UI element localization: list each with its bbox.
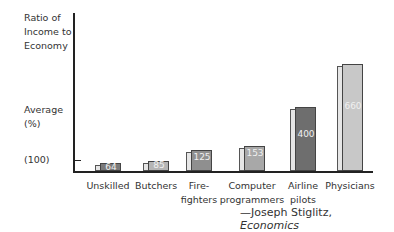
bar-value-label: 125 xyxy=(192,152,212,162)
bar-value-label: 400 xyxy=(296,129,316,139)
y-axis-label-line-1: Ratio of xyxy=(24,11,61,25)
source-work: Economics xyxy=(240,219,299,232)
source-author: —Joseph Stiglitz, xyxy=(240,206,332,219)
y-axis-label-line-4: Average xyxy=(24,103,63,117)
reference-tick-label: (100) xyxy=(24,153,50,167)
bar-airline-pilots: 400 xyxy=(290,107,316,171)
bar-computer-programmers: 153 xyxy=(239,146,265,171)
reference-tick xyxy=(73,160,81,161)
y-axis-label-line-5: (%) xyxy=(24,117,40,131)
y-axis-label-line-2: Income to xyxy=(24,25,72,39)
bar-unskilled: 64 xyxy=(95,163,121,171)
bar-face xyxy=(342,64,363,171)
source-citation: —Joseph Stiglitz, Economics xyxy=(240,206,394,232)
bar-value-label: 64 xyxy=(101,162,121,172)
bar-fire-fighters: 125 xyxy=(186,150,212,171)
bar-value-label: 660 xyxy=(343,101,363,111)
y-axis-label-line-3: Economy xyxy=(24,39,68,53)
bar-value-label: 153 xyxy=(245,148,265,158)
category-label: Physicians xyxy=(310,179,390,193)
bar-physicians: 660 xyxy=(337,64,363,171)
bar-butchers: 85 xyxy=(143,161,169,171)
y-axis xyxy=(73,13,75,171)
bar-value-label: 85 xyxy=(149,160,169,170)
